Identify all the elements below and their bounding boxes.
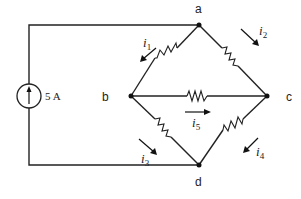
resistor-ac bbox=[199, 25, 267, 96]
node-b bbox=[129, 94, 134, 99]
i4-label: i4 bbox=[256, 144, 265, 161]
current-i2: i2 bbox=[241, 23, 267, 46]
node-label-d: d bbox=[195, 175, 202, 189]
i3-label: i3 bbox=[141, 151, 150, 168]
source-arrow-head-icon bbox=[27, 86, 32, 92]
i5-arrow-head-icon bbox=[204, 109, 211, 115]
node-label-c: c bbox=[286, 90, 292, 104]
node-label-a: a bbox=[195, 2, 202, 16]
i2-label: i2 bbox=[259, 23, 267, 40]
node-c bbox=[265, 94, 270, 99]
resistor-bc bbox=[131, 91, 267, 101]
source-label: 5 A bbox=[45, 90, 61, 102]
bridge-circuit-diagram: 5 A a b c d bbox=[0, 0, 301, 199]
current-i3: i3 bbox=[139, 139, 157, 168]
bottom-wire bbox=[29, 108, 199, 165]
i1-label: i1 bbox=[143, 35, 151, 52]
top-wire bbox=[29, 25, 199, 84]
node-label-b: b bbox=[102, 90, 109, 104]
node-a bbox=[197, 23, 202, 28]
current-i4: i4 bbox=[243, 138, 265, 161]
i5-label: i5 bbox=[192, 115, 201, 132]
current-source: 5 A bbox=[17, 84, 61, 108]
i2-arrow-shaft bbox=[241, 29, 256, 43]
node-d bbox=[197, 163, 202, 168]
current-i1: i1 bbox=[140, 35, 156, 62]
current-i5: i5 bbox=[185, 109, 211, 132]
